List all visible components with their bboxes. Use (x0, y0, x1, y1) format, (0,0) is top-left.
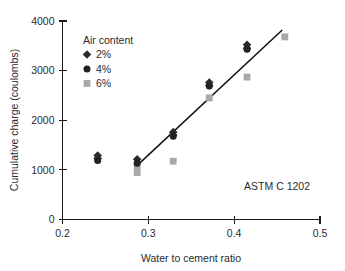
scatter-plot: 01000200030004000 0.20.30.40.5 Air conte… (0, 0, 345, 271)
legend: Air content (83, 34, 133, 46)
y-tick-label: 3000 (31, 64, 55, 76)
legend-marker-6pct (84, 80, 91, 87)
x-tick-label: 0.4 (227, 227, 242, 239)
y-tick-label: 2000 (31, 114, 55, 126)
legend-label-6pct: 6% (96, 77, 111, 89)
legend-title: Air content (83, 34, 133, 46)
y-axis-title: Cumulative charge (coulombs) (8, 49, 20, 191)
data-point-6pct (134, 169, 141, 176)
data-point-4pct (206, 83, 213, 90)
x-tick-label: 0.3 (141, 227, 156, 239)
data-point-4pct (94, 157, 101, 164)
x-axis-title: Water to cement ratio (141, 252, 241, 264)
y-tick-label: 1000 (31, 164, 55, 176)
y-tick-label: 0 (49, 213, 55, 225)
legend-label-2pct: 2% (96, 48, 111, 60)
x-tick-label: 0.2 (55, 227, 70, 239)
data-point-4pct (244, 46, 251, 53)
astm-annotation: ASTM C 1202 (244, 180, 310, 192)
legend-label-4pct: 4% (96, 63, 111, 75)
data-point-4pct (170, 133, 177, 140)
y-tick-label: 4000 (31, 15, 55, 27)
chart-figure: 01000200030004000 0.20.30.40.5 Air conte… (0, 0, 345, 271)
legend-marker-4pct (84, 66, 91, 73)
data-point-6pct (281, 33, 288, 40)
data-point-4pct (134, 160, 141, 167)
data-point-6pct (244, 74, 251, 81)
legend-entries: 2%4%6% (83, 48, 111, 89)
data-point-6pct (206, 95, 213, 102)
data-point-6pct (170, 158, 177, 165)
x-tick-label: 0.5 (313, 227, 328, 239)
